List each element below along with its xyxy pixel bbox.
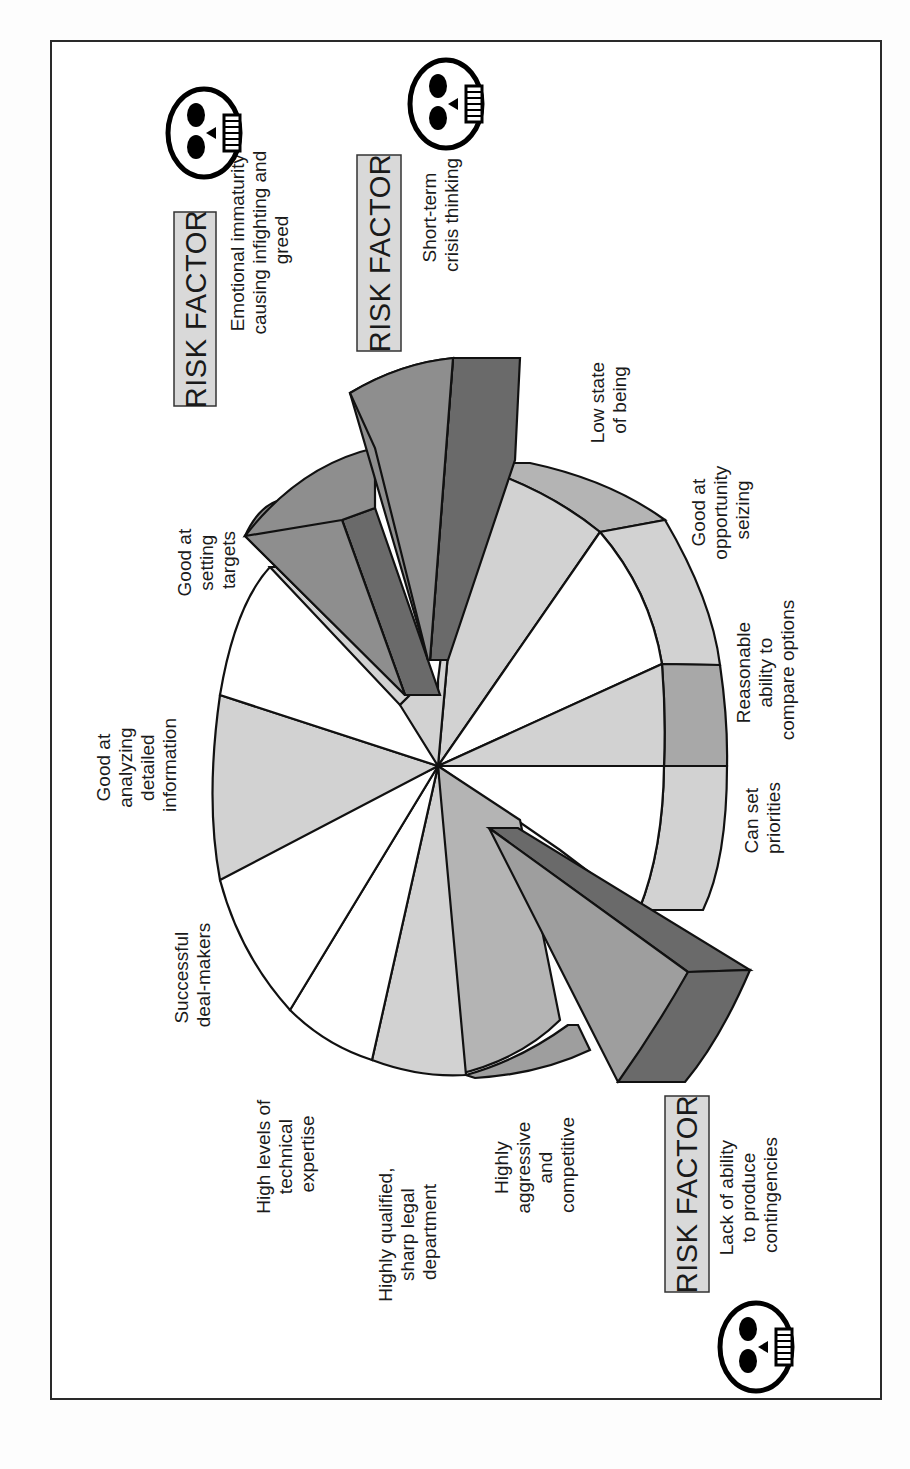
svg-text:Successful deal-makers: Successful deal-makers bbox=[171, 923, 214, 1028]
svg-text:Low state of being: Low state of being bbox=[587, 357, 630, 444]
svg-text:RISK FACTOR: RISK FACTOR bbox=[180, 210, 212, 408]
skull-icon bbox=[168, 89, 240, 177]
svg-text:RISK FACTOR: RISK FACTOR bbox=[671, 1095, 703, 1293]
svg-text:Short-term crisis thin: Short-term crisis thinking bbox=[419, 158, 462, 272]
svg-text:RISK FACTOR: RISK FACTOR bbox=[364, 154, 396, 352]
skull-icon bbox=[410, 60, 482, 148]
svg-text:Lack of ability to pro: Lack of ability to produce contingencies bbox=[716, 1135, 781, 1255]
svg-text:Can set priorities: Can set priorities bbox=[741, 782, 784, 854]
skull-icon bbox=[720, 1303, 792, 1391]
risk-pie-diagram: Good at setting targets Good at analyzin… bbox=[0, 0, 910, 1469]
scanned-page: Good at setting targets Good at analyzin… bbox=[0, 0, 910, 1469]
svg-text:Good at setting: Good at setting targets bbox=[174, 524, 239, 597]
svg-text:Good at analyzing: Good at analyzing detailed information bbox=[93, 718, 180, 812]
